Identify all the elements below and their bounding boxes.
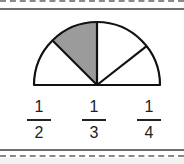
shaded-sector	[53, 22, 98, 85]
radius-line-38	[97, 46, 147, 85]
denominator: 3	[79, 124, 109, 142]
numerator: 1	[79, 98, 109, 116]
fraction-option-third[interactable]: 1 3	[79, 98, 109, 142]
numerator: 1	[134, 98, 164, 116]
numerator: 1	[24, 98, 54, 116]
fraction-option-quarter[interactable]: 1 4	[134, 98, 164, 142]
bottom-dashed-border	[0, 155, 184, 157]
bottom-rule	[0, 149, 184, 151]
fraction-bar	[82, 119, 106, 121]
denominator: 4	[134, 124, 164, 142]
lower-margin	[0, 158, 184, 164]
fraction-bar	[137, 119, 161, 121]
fraction-option-half[interactable]: 1 2	[24, 98, 54, 142]
fraction-bar	[27, 119, 51, 121]
denominator: 2	[24, 124, 54, 142]
